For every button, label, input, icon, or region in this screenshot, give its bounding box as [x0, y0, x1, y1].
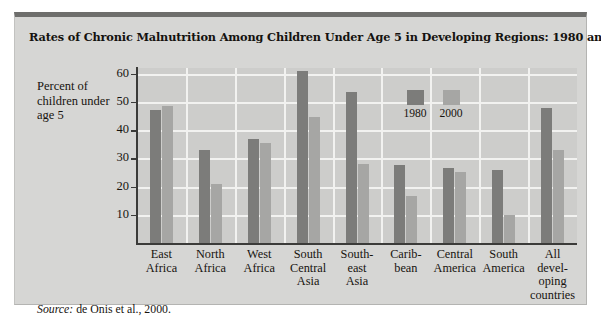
x-axis-tick-label-line: South: [479, 248, 528, 262]
x-axis-tick-label-line: Central: [284, 262, 333, 276]
x-axis-tick-label-line: South: [284, 248, 333, 262]
y-axis-tick-label: 10: [101, 207, 129, 222]
x-axis-tick-label-line: oping: [528, 275, 577, 289]
x-axis-tick-label-line: West: [235, 248, 284, 262]
plot-area: [137, 68, 577, 243]
y-axis-tick-mark: [131, 215, 137, 217]
x-axis-tick-label-line: America: [479, 262, 528, 276]
source-label: Source:: [37, 302, 73, 316]
gridline-vertical: [528, 68, 530, 243]
x-axis-tick-label-line: Asia: [333, 275, 382, 289]
bar-2000-central-america: [455, 172, 466, 243]
y-axis-tick-mark: [131, 102, 137, 104]
x-axis-tick-label-south-america: SouthAmerica: [479, 248, 528, 275]
bar-2000-southeast-asia: [358, 164, 369, 243]
x-axis-tick-label-line: east: [333, 262, 382, 276]
bar-1980-east-africa: [150, 110, 161, 243]
x-axis-tick-label-north-africa: NorthAfrica: [186, 248, 235, 275]
bar-1980-south-america: [492, 170, 503, 243]
y-axis-tick-label: 50: [101, 94, 129, 109]
x-axis-tick-label-line: Central: [430, 248, 479, 262]
y-axis-tick-mark: [131, 130, 137, 132]
bar-1980-north-africa: [199, 150, 210, 243]
x-axis-tick-label-west-africa: WestAfrica: [235, 248, 284, 275]
source-text: de Onis et al., 2000.: [76, 302, 171, 316]
gridline-horizontal: [137, 74, 577, 76]
legend-label-2000: 2000: [433, 107, 469, 120]
bar-1980-west-africa: [248, 139, 259, 243]
y-axis-tick-label: 60: [101, 66, 129, 81]
x-axis-tick-label-line: devel-: [528, 262, 577, 276]
gridline-vertical: [430, 68, 432, 243]
gridline-horizontal: [137, 130, 577, 132]
y-axis-tick-mark: [131, 187, 137, 189]
bar-2000-south-central-asia: [309, 117, 320, 243]
x-axis-tick-label-caribbean: Carib-bean: [381, 248, 430, 275]
x-axis-tick-label-east-africa: EastAfrica: [137, 248, 186, 275]
x-axis-tick-label-line: bean: [381, 262, 430, 276]
x-axis-tick-label-line: countries: [528, 289, 577, 303]
y-axis-tick-label: 30: [101, 150, 129, 165]
y-axis-tick-mark: [131, 74, 137, 76]
bar-1980-all-developing-countries: [541, 108, 552, 243]
legend-label-1980: 1980: [397, 107, 433, 120]
y-axis-tick-label: 20: [101, 179, 129, 194]
gridline-vertical: [479, 68, 481, 243]
x-axis-tick-label-line: North: [186, 248, 235, 262]
gridline-vertical: [235, 68, 237, 243]
bar-2000-east-africa: [162, 106, 173, 243]
bar-2000-all-developing-countries: [553, 150, 564, 243]
bar-1980-central-america: [443, 168, 454, 243]
x-axis-tick-label-line: All: [528, 248, 577, 262]
gridline-vertical: [284, 68, 286, 243]
x-axis-tick-label-line: East: [137, 248, 186, 262]
x-axis-tick-label-south-central-asia: SouthCentralAsia: [284, 248, 333, 289]
x-axis-tick-label-southeast-asia: South-eastAsia: [333, 248, 382, 289]
y-axis-line: [136, 67, 138, 244]
source-note: Source: de Onis et al., 2000.: [37, 302, 171, 317]
x-axis-tick-label-line: Africa: [137, 262, 186, 276]
legend-swatch-2000: [443, 90, 460, 105]
x-axis-line: [136, 243, 577, 245]
bar-1980-southeast-asia: [346, 92, 357, 243]
x-axis-tick-label-all-developing-countries: Alldevel-opingcountries: [528, 248, 577, 302]
x-axis-tick-label-central-america: CentralAmerica: [430, 248, 479, 275]
bar-2000-north-africa: [211, 184, 222, 243]
bar-1980-caribbean: [394, 165, 405, 243]
legend-swatch-1980: [407, 90, 424, 105]
bar-2000-caribbean: [406, 196, 417, 243]
y-axis-tick-labels: 102030405060: [99, 17, 129, 304]
y-axis-tick-mark: [131, 158, 137, 160]
x-axis-tick-label-line: Africa: [186, 262, 235, 276]
x-axis-tick-label-line: Africa: [235, 262, 284, 276]
y-axis-tick-label: 40: [101, 122, 129, 137]
gridline-horizontal: [137, 102, 577, 104]
gridline-vertical: [333, 68, 335, 243]
gridline-vertical: [186, 68, 188, 243]
bar-2000-west-africa: [260, 143, 271, 243]
gridline-vertical: [381, 68, 383, 243]
figure-card: Rates of Chronic Malnutrition Among Chil…: [14, 12, 587, 305]
bar-2000-south-america: [504, 215, 515, 243]
bar-1980-south-central-asia: [297, 71, 308, 243]
x-axis-tick-label-line: South-: [333, 248, 382, 262]
x-axis-tick-label-line: America: [430, 262, 479, 276]
x-axis-tick-label-line: Carib-: [381, 248, 430, 262]
x-axis-tick-label-line: Asia: [284, 275, 333, 289]
